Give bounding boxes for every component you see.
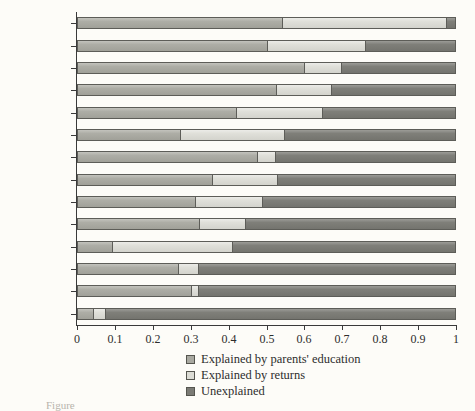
bar-row [77,107,456,119]
x-axis-tick [267,325,268,330]
x-axis-label: 0.3 [171,332,211,347]
bar-row [77,129,456,141]
bar-segment [199,264,455,274]
bar-segment [199,219,246,229]
x-axis-label: 0.7 [322,332,362,347]
stacked-bar[interactable] [77,218,456,230]
stacked-bar[interactable] [77,62,456,74]
stacked-bar[interactable] [77,151,456,163]
bar-segment [178,264,199,274]
bar-row [77,285,456,297]
bar-row [77,62,456,74]
stacked-bar[interactable] [77,84,456,96]
bar-row [77,151,456,163]
bar-row [77,308,456,320]
bar-segment [78,152,257,162]
stacked-bar[interactable] [77,107,456,119]
stacked-bar[interactable] [77,263,456,275]
x-axis-label: 0.8 [360,332,400,347]
bar-segment [78,286,191,296]
legend-swatch-icon [186,355,195,364]
stacked-bar[interactable] [77,17,456,29]
bar-segment [93,309,106,319]
y-axis-tick [71,23,77,24]
bar-row [77,218,456,230]
bar-segment [106,309,455,319]
legend-item-label: Explained by returns [201,369,305,382]
bar-segment [276,85,333,95]
bar-segment [78,242,112,252]
bar-segment [78,197,195,207]
bar-segment [267,41,367,51]
bar-segment [112,242,233,252]
stacked-bar[interactable] [77,40,456,52]
legend-item-label: Explained by parents' education [201,353,361,366]
legend-item[interactable]: Unexplained [186,384,361,399]
bar-segment [276,152,455,162]
y-axis-tick [71,180,77,181]
y-axis-tick [71,68,77,69]
bar-segment [278,175,455,185]
bar-segment [78,108,236,118]
bar-segment [323,108,455,118]
y-axis-tick [71,224,77,225]
bar-segment [78,41,267,51]
bar-segment [332,85,455,95]
y-axis-tick [71,202,77,203]
bar-segment [366,41,455,51]
bar-segment [447,18,455,28]
legend-item[interactable]: Explained by returns [186,368,361,383]
bar-segment [212,175,278,185]
y-axis-tick [71,157,77,158]
bar-segment [285,130,455,140]
plot-area [77,12,456,325]
bar-segment [342,63,455,73]
stacked-bar[interactable] [77,285,456,297]
bar-segment [78,85,276,95]
legend-swatch-icon [186,371,195,380]
bar-row [77,84,456,96]
bar-segment [263,197,455,207]
bar-segment [304,63,342,73]
x-axis-tick [229,325,230,330]
bar-segment [78,63,304,73]
stacked-bar[interactable] [77,174,456,186]
stacked-bar[interactable] [77,308,456,320]
figure-caption: Figure [46,399,466,411]
stacked-bar[interactable] [77,196,456,208]
x-axis-label: 0 [57,332,97,347]
bar-segment [233,242,455,252]
x-axis-tick [456,325,457,330]
bar-segment [246,219,455,229]
x-axis-tick [380,325,381,330]
y-axis-tick [71,113,77,114]
bar-segment [191,286,199,296]
bar-segment [257,152,276,162]
y-axis-tick [71,314,77,315]
x-axis-label: 0.4 [209,332,249,347]
bar-segment [78,175,212,185]
stacked-bar[interactable] [77,241,456,253]
bar-segment [195,197,263,207]
stacked-bar[interactable] [77,129,456,141]
bar-row [77,40,456,52]
bar-segment [78,18,282,28]
y-axis-tick [71,90,77,91]
y-axis-tick [71,269,77,270]
y-axis-tick [71,135,77,136]
bar-segment [78,264,178,274]
chart-legend: Explained by parents' educationExplained… [186,352,361,400]
bar-segment [78,309,93,319]
x-axis-label: 0.5 [247,332,287,347]
y-axis-tick [71,46,77,47]
bar-row [77,263,456,275]
x-axis-tick [418,325,419,330]
x-axis-tick [77,325,78,330]
legend-swatch-icon [186,387,195,396]
legend-item[interactable]: Explained by parents' education [186,352,361,367]
x-axis-label: 0.2 [133,332,173,347]
x-axis-label: 0.6 [284,332,324,347]
x-axis-tick [191,325,192,330]
x-axis-label: 1 [436,332,475,347]
